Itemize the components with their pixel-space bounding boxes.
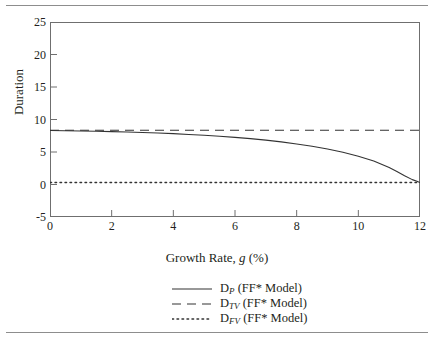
legend-item: DP (FF* Model) xyxy=(0,281,434,296)
legend-swatch-dashed xyxy=(172,299,212,309)
x-tick-label: 10 xyxy=(343,219,373,233)
x-axis-title: Growth Rate, g (%) xyxy=(0,250,434,266)
figure-bottom-rule xyxy=(6,332,428,333)
legend-item: DFV (FF* Model) xyxy=(0,311,434,326)
chart-legend: DP (FF* Model)DTV (FF* Model)DFV (FF* Mo… xyxy=(0,281,434,326)
legend-item: DTV (FF* Model) xyxy=(0,296,434,311)
y-tick-label: 10 xyxy=(16,114,46,126)
plot-canvas xyxy=(50,22,420,217)
legend-swatch-dotted xyxy=(172,314,212,324)
x-tick-label: 2 xyxy=(97,219,127,233)
figure: Duration -50510152025 024681012 Growth R… xyxy=(0,0,434,341)
y-tick-label: 20 xyxy=(16,49,46,61)
y-tick-label: 0 xyxy=(16,179,46,191)
legend-swatch-solid xyxy=(172,284,212,294)
y-axis-ticks: -50510152025 xyxy=(10,22,46,217)
x-tick-label: 12 xyxy=(405,219,434,233)
x-tick-label: 0 xyxy=(35,219,65,233)
legend-label: DTV (FF* Model) xyxy=(220,296,307,311)
x-axis-ticks: 024681012 xyxy=(50,219,420,237)
y-tick-label: 25 xyxy=(16,16,46,28)
x-tick-label: 8 xyxy=(282,219,312,233)
y-tick-label: 15 xyxy=(16,81,46,93)
x-axis-title-text: Growth Rate, xyxy=(166,250,239,265)
legend-label: DP (FF* Model) xyxy=(220,281,302,296)
x-axis-title-unit: (%) xyxy=(246,250,269,265)
legend-label: DFV (FF* Model) xyxy=(220,311,307,326)
series-line-1 xyxy=(50,131,420,183)
figure-top-rule xyxy=(6,5,428,6)
x-tick-label: 6 xyxy=(220,219,250,233)
x-tick-label: 4 xyxy=(158,219,188,233)
y-tick-label: 5 xyxy=(16,146,46,158)
plot-area xyxy=(50,22,420,217)
